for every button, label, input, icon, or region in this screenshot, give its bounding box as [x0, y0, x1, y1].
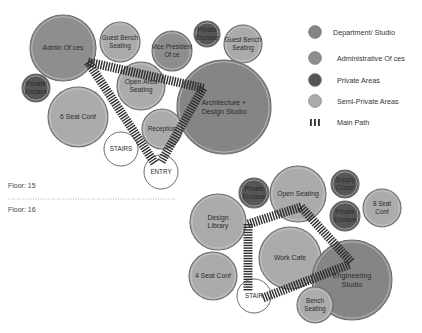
legend-path-icon [310, 119, 320, 126]
space-label-open-area-seating: Seating [129, 86, 152, 94]
legend-label-private: Private Areas [337, 76, 380, 85]
space-label-guest-bench-seating-right: Seating [232, 44, 254, 52]
space-label-private-enclave-left: Enclave [25, 88, 48, 95]
space-label-design-library: Design [207, 214, 228, 222]
space-label-private-enclave-b: Enclave [334, 216, 357, 223]
legend-label-administrative: Administrative Of ces [337, 54, 405, 63]
space-label-six-seat-conf: 6 Seat Conf [60, 113, 96, 120]
floor-15-label: Floor: 15 [8, 182, 36, 189]
space-label-supply-closet: Closet [336, 184, 354, 191]
space-label-eight-seat-conf: Conf [375, 208, 389, 215]
space-label-open-seating: Open Seating [277, 190, 319, 198]
space-label-engineering-studio: Studio [342, 280, 362, 289]
space-label-private-enclave-a: Enclave [243, 193, 266, 200]
space-label-private-enclave-a: Private [244, 185, 264, 192]
space-label-guest-bench-seating-left: Guest Bench [102, 34, 139, 41]
legend-swatch-private [309, 74, 322, 87]
space-label-reception: Reception [148, 125, 177, 133]
floor-16-label: Floor: 16 [8, 206, 36, 213]
legend-label-main-path: Main Path [337, 118, 369, 127]
space-label-vice-president-office: Of ce [164, 51, 180, 58]
legend-label-department: Department/ Studio [333, 28, 395, 37]
space-label-open-area-seating: Open Area [125, 78, 158, 86]
space-label-private-enclave-b: Private [335, 208, 355, 215]
space-label-entry: ENTRY [150, 168, 172, 175]
space-label-vice-president-office: Vice President [152, 43, 193, 50]
space-label-private-enclave-top: Enclave [196, 34, 219, 41]
legend-swatch-administrative [309, 52, 322, 65]
legend-swatch-semi-private [309, 95, 322, 108]
space-label-private-enclave-top: Private [197, 26, 217, 33]
legend: Department/ Studio Administrative Of ces… [309, 26, 406, 128]
legend-label-semi-private: Semi-Private Areas [337, 97, 399, 106]
space-label-guest-bench-seating-right: Guest Bench [225, 36, 262, 43]
space-label-private-enclave-left: Private [26, 80, 46, 87]
bubble-diagram: Admin Of cesGuest BenchSeatingVice Presi… [0, 0, 422, 333]
space-label-bench-seating: Seating [304, 305, 326, 313]
space-label-design-library: Library [208, 222, 229, 230]
space-label-stairs: STAIRS [110, 145, 132, 152]
space-label-bench-seating: Bench [306, 297, 324, 304]
space-label-work-cafe: Work Cafe [274, 254, 306, 261]
space-label-stair: STAIR [245, 292, 264, 299]
space-label-admin-offices: Admin Of ces [43, 44, 84, 51]
space-label-guest-bench-seating-left: Seating [109, 42, 131, 50]
space-label-four-seat-conf: 4 Seat Conf [195, 272, 231, 279]
space-label-eight-seat-conf: 8 Seat [373, 200, 391, 207]
legend-swatch-department [309, 26, 322, 39]
space-label-architecture-design-studio: Design Studio [202, 107, 247, 116]
